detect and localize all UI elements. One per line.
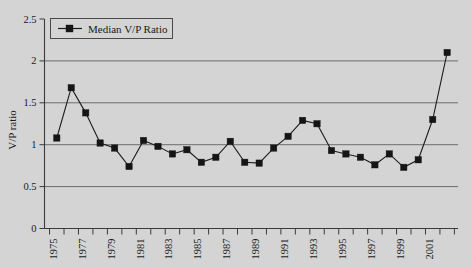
x-tick-label-1999: 1999 bbox=[395, 239, 406, 260]
x-tick-label-1979: 1979 bbox=[106, 239, 117, 260]
data-point-1980 bbox=[126, 163, 132, 169]
data-point-1992 bbox=[299, 117, 305, 123]
legend-label-median-vp-ratio: Median V/P Ratio bbox=[88, 23, 168, 35]
x-tick-label-1995: 1995 bbox=[337, 239, 348, 260]
y-axis-title: V/P ratio bbox=[6, 110, 18, 150]
x-tick-label-1991: 1991 bbox=[279, 239, 290, 260]
data-point-2002 bbox=[444, 49, 450, 55]
data-point-1995 bbox=[343, 151, 349, 157]
y-tick-label-0.5: 0.5 bbox=[23, 181, 36, 192]
data-point-1981 bbox=[140, 137, 146, 143]
data-point-1990 bbox=[270, 145, 276, 151]
data-point-2000 bbox=[415, 157, 421, 163]
x-tick-label-1985: 1985 bbox=[192, 239, 203, 260]
data-point-1989 bbox=[256, 160, 262, 166]
legend: Median V/P Ratio bbox=[51, 19, 173, 39]
x-tick-label-1997: 1997 bbox=[366, 239, 377, 260]
data-point-1975 bbox=[54, 135, 60, 141]
x-tick-label-1983: 1983 bbox=[163, 239, 174, 260]
chart-background bbox=[0, 0, 471, 267]
data-point-1994 bbox=[328, 147, 334, 153]
y-tick-label-1.5: 1.5 bbox=[23, 97, 36, 108]
y-tick-label-1: 1 bbox=[31, 139, 36, 150]
x-tick-label-1981: 1981 bbox=[135, 239, 146, 260]
data-point-1985 bbox=[198, 159, 204, 165]
y-tick-label-0: 0 bbox=[31, 223, 36, 234]
data-point-1996 bbox=[357, 154, 363, 160]
data-point-1987 bbox=[227, 138, 233, 144]
y-tick-label-2.5: 2.5 bbox=[23, 14, 36, 25]
data-point-1991 bbox=[285, 133, 291, 139]
x-tick-label-1977: 1977 bbox=[77, 239, 88, 260]
x-tick-label-1993: 1993 bbox=[308, 239, 319, 260]
legend-sample-marker bbox=[66, 25, 73, 32]
data-point-1993 bbox=[314, 121, 320, 127]
x-tick-label-1987: 1987 bbox=[221, 239, 232, 260]
data-point-1988 bbox=[242, 159, 248, 165]
vp-ratio-line-chart: 00.511.522.5 197519771979198119831985198… bbox=[0, 0, 471, 267]
data-point-1998 bbox=[386, 151, 392, 157]
data-point-1978 bbox=[97, 140, 103, 146]
data-point-2001 bbox=[430, 116, 436, 122]
data-point-1979 bbox=[111, 145, 117, 151]
data-point-1997 bbox=[372, 162, 378, 168]
x-tick-label-1975: 1975 bbox=[48, 239, 59, 260]
x-tick-label-2001: 2001 bbox=[424, 239, 435, 260]
data-point-1986 bbox=[213, 154, 219, 160]
data-point-1982 bbox=[155, 143, 161, 149]
data-point-1977 bbox=[83, 110, 89, 116]
chart-container: 00.511.522.5 197519771979198119831985198… bbox=[0, 0, 471, 267]
y-tick-label-2: 2 bbox=[31, 55, 36, 66]
data-point-1999 bbox=[401, 164, 407, 170]
x-tick-label-1989: 1989 bbox=[250, 239, 261, 260]
data-point-1983 bbox=[169, 151, 175, 157]
data-point-1976 bbox=[68, 85, 74, 91]
data-point-1984 bbox=[184, 147, 190, 153]
